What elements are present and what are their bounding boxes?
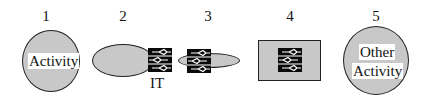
item-number-2: 2 bbox=[113, 8, 133, 24]
activity-label: Activity bbox=[28, 53, 79, 69]
activity-label-2: Activity bbox=[352, 63, 403, 79]
other-activity-circle bbox=[343, 26, 409, 95]
item-number-5: 5 bbox=[366, 8, 386, 24]
other-label: Other bbox=[359, 44, 395, 60]
item-number-1: 1 bbox=[36, 8, 56, 24]
item-number-3: 3 bbox=[198, 8, 218, 24]
it-chip-icon bbox=[148, 48, 172, 72]
item-number-4: 4 bbox=[280, 8, 300, 24]
it-caption: IT bbox=[150, 75, 164, 91]
it-chip-icon bbox=[278, 48, 302, 72]
activity-ellipse bbox=[92, 44, 154, 77]
it-chip-icon bbox=[187, 49, 211, 73]
